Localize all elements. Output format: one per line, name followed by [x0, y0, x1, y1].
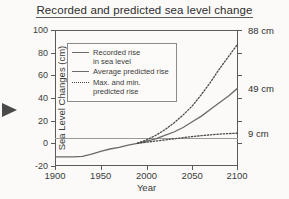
legend-item-bounds: Max. and min. predicted rise [72, 78, 171, 96]
plot-area: 100 80 60 40 20 0 -20 1900 1950 2000 205… [55, 30, 238, 166]
y-tick-label-0: 0 [43, 138, 48, 148]
legend-item-average: Average predicted rise [72, 67, 171, 76]
y-tick-label-80: 80 [38, 48, 48, 58]
series-line [55, 143, 137, 157]
y-tick-label-60: 60 [38, 70, 48, 80]
x-tick-label-1900: 1900 [44, 170, 65, 181]
legend-label-bounds: Max. and min. predicted rise [93, 78, 141, 96]
chart-page: Recorded and predicted sea level change … [0, 0, 289, 199]
x-axis-title: Year [55, 182, 238, 193]
x-tick-label-1950: 1950 [90, 170, 111, 181]
x-tick-label-2050: 2050 [182, 170, 203, 181]
y-tick-label-40: 40 [38, 93, 48, 103]
x-tick-label-2000: 2000 [136, 170, 157, 181]
y-tick-label-100: 100 [33, 25, 48, 35]
page-title: Recorded and predicted sea level change [0, 4, 289, 16]
legend-label-recorded: Recorded rise in sea level [93, 48, 140, 66]
endpoint-label-49: 49 cm [248, 82, 274, 93]
chart-legend: Recorded rise in sea level Average predi… [67, 43, 177, 102]
endpoint-label-9: 9 cm [248, 128, 269, 139]
page-title-text: Recorded and predicted sea level change [36, 4, 252, 18]
x-tick-label-2100: 2100 [226, 170, 247, 181]
y-tick-label-20: 20 [38, 116, 48, 126]
series-line [137, 133, 238, 143]
endpoint-label-88: 88 cm [248, 25, 274, 36]
legend-item-recorded: Recorded rise in sea level [72, 48, 171, 66]
legend-swatch-dotted-icon [72, 82, 89, 83]
legend-label-average: Average predicted rise [93, 67, 169, 76]
legend-swatch-solid-icon [72, 52, 89, 53]
left-pointer-icon [2, 103, 17, 117]
legend-swatch-solid-icon [72, 71, 89, 72]
